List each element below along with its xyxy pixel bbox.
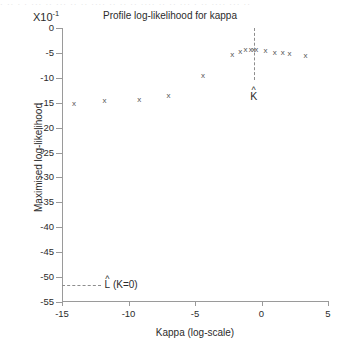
x-axis-label: Kappa (log-scale) — [62, 327, 328, 338]
x-tick-label: -15 — [47, 309, 77, 319]
profile-log-likelihood-figure: · ·· · · ··· ·· ··· ·· ·· ···· ·· ·· ·· … — [0, 0, 346, 354]
data-point: x — [199, 71, 206, 80]
kappa-hat-dashed-line — [254, 28, 255, 80]
y-axis-multiplier-exponent: -1 — [53, 9, 60, 18]
data-point: x — [101, 96, 108, 105]
l-hat-k0-label: ^L (K=0) — [105, 279, 138, 290]
data-point: x — [271, 48, 278, 57]
y-axis-multiplier: X10-1 — [33, 9, 59, 23]
data-point: x — [286, 49, 293, 58]
x-tick-label: 0 — [247, 309, 277, 319]
y-axis-label: Maximised log-likelihood — [33, 58, 44, 258]
y-tick-label: 0 — [14, 23, 54, 33]
plot-area: xxxxxxxxxxxxxxxx ^K^L (K=0) — [62, 28, 328, 302]
x-tick-mark — [328, 301, 329, 306]
x-tick-label: -10 — [114, 309, 144, 319]
kappa-hat-label: ^K — [250, 90, 257, 102]
x-tick-label: 5 — [313, 309, 343, 319]
chart-title: Profile log-likelihood for kappa — [103, 10, 237, 21]
y-tick-label: -50 — [14, 272, 54, 282]
l-hat-dashed-line — [62, 285, 101, 286]
x-tick-label: -5 — [180, 309, 210, 319]
data-point: x — [302, 51, 309, 60]
data-point: x — [165, 91, 172, 100]
data-point: x — [70, 99, 77, 108]
y-tick-label: -5 — [14, 48, 54, 58]
scan-artifact-top: · ·· · · ··· ·· ··· ·· ·· ···· ·· ·· ·· … — [0, 0, 346, 5]
data-point: x — [229, 50, 236, 59]
data-point: x — [136, 95, 143, 104]
y-tick-label: -55 — [14, 297, 54, 307]
y-axis-multiplier-prefix: X10 — [33, 11, 53, 23]
data-point: x — [262, 46, 269, 55]
